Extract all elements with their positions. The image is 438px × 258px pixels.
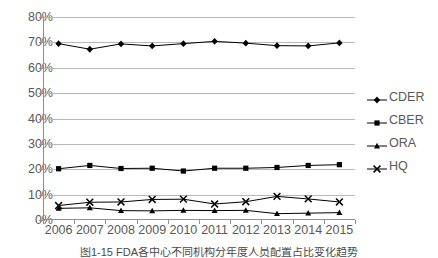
x-axis-tick-label: 2006 bbox=[45, 224, 73, 237]
legend-item-hq[interactable]: HQ bbox=[366, 155, 438, 178]
series-cder bbox=[55, 38, 342, 53]
data-point-diamond bbox=[180, 40, 186, 47]
legend-item-cber[interactable]: CBER bbox=[366, 109, 438, 132]
x-axis-tick bbox=[355, 220, 356, 224]
legend-marker-square-icon bbox=[366, 115, 388, 127]
legend-marker-cross-icon bbox=[366, 161, 388, 173]
data-point-diamond bbox=[243, 40, 249, 47]
data-point-diamond bbox=[118, 40, 124, 47]
data-point-diamond bbox=[87, 46, 93, 53]
x-axis-tick-label: 2013 bbox=[263, 224, 291, 237]
data-point-square bbox=[87, 163, 92, 168]
data-point-square bbox=[306, 163, 311, 168]
data-point-diamond bbox=[305, 43, 311, 50]
data-point-diamond bbox=[336, 39, 342, 46]
legend-item-ora[interactable]: ORA bbox=[366, 132, 438, 155]
legend-marker-triangle-icon bbox=[366, 138, 388, 150]
data-point-diamond bbox=[149, 43, 155, 50]
figure-caption: 图1-15 FDA各中心不同机构分年度人员配置占比变化趋势 bbox=[0, 247, 438, 258]
legend-label: CDER bbox=[389, 91, 424, 104]
data-point-diamond bbox=[211, 38, 217, 45]
data-point-square bbox=[274, 165, 279, 170]
data-point-diamond bbox=[274, 42, 280, 49]
series-line bbox=[59, 208, 340, 214]
data-point-diamond bbox=[55, 40, 61, 47]
chart-container: 0%10%20%30%40%50%60%70%80% 2006200720082… bbox=[0, 0, 438, 258]
data-point-square bbox=[243, 166, 248, 171]
x-axis-tick-label: 2008 bbox=[107, 224, 135, 237]
data-point-square bbox=[150, 166, 155, 171]
x-axis-tick-label: 2015 bbox=[325, 224, 353, 237]
series-layer bbox=[43, 17, 355, 220]
data-point-square bbox=[56, 166, 61, 171]
legend-label: CBER bbox=[389, 114, 424, 127]
series-ora bbox=[56, 205, 343, 216]
series-line bbox=[59, 165, 340, 171]
data-point-square bbox=[374, 120, 379, 125]
series-line bbox=[59, 41, 340, 49]
x-axis-tick-label: 2007 bbox=[76, 224, 104, 237]
data-point-diamond bbox=[374, 96, 380, 103]
data-point-square bbox=[181, 168, 186, 173]
data-point-square bbox=[337, 162, 342, 167]
series-cber bbox=[56, 162, 342, 174]
series-hq bbox=[55, 193, 343, 209]
x-axis-tick-label: 2012 bbox=[232, 224, 260, 237]
x-axis-tick-label: 2014 bbox=[294, 224, 322, 237]
chart-legend: CDERCBERORAHQ bbox=[366, 86, 438, 178]
plot-area bbox=[43, 17, 355, 220]
series-line bbox=[59, 196, 340, 205]
legend-label: ORA bbox=[389, 137, 416, 150]
x-axis-tick-label: 2011 bbox=[201, 224, 228, 237]
x-axis-tick-label: 2010 bbox=[169, 224, 197, 237]
x-axis-tick-label: 2009 bbox=[138, 224, 166, 237]
legend-label: HQ bbox=[389, 160, 408, 173]
data-point-square bbox=[212, 166, 217, 171]
legend-marker-diamond-icon bbox=[366, 92, 388, 104]
x-axis-tick bbox=[199, 220, 200, 224]
data-point-square bbox=[118, 166, 123, 171]
legend-item-cder[interactable]: CDER bbox=[366, 86, 438, 109]
y-axis-tick bbox=[39, 220, 43, 221]
